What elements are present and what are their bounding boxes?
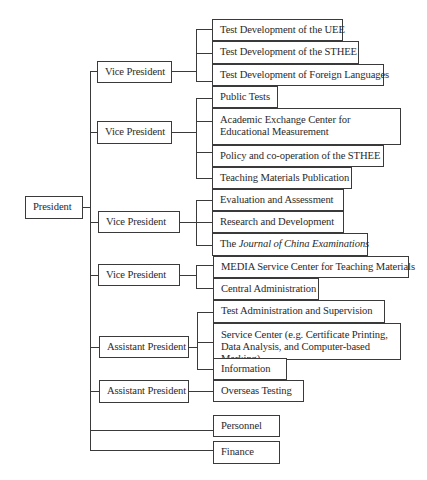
vice-president-box: Vice President [97, 61, 172, 83]
vice-president-box: Vice President [98, 264, 180, 286]
unit-box: Academic Exchange Center for Educational… [212, 108, 401, 145]
connector [196, 29, 212, 30]
unit-box: Test Development of the STHEE [212, 41, 359, 64]
connector [196, 81, 212, 82]
vice-president-box: Vice President [97, 121, 172, 144]
unit-box: Overseas Testing [213, 380, 304, 402]
assistant-president-box: Assistant President [99, 380, 189, 403]
org-chart: President Vice President Vice President … [0, 0, 427, 480]
connector [196, 98, 212, 99]
connector [90, 347, 99, 348]
unit-box: Evaluation and Assessment [212, 189, 344, 211]
sub-spine [196, 29, 197, 82]
unit-box: Public Tests [212, 86, 278, 108]
connector [189, 391, 213, 392]
connector [172, 132, 196, 133]
journal-prefix: The [220, 238, 239, 249]
main-spine [90, 71, 91, 451]
connector [196, 178, 212, 179]
connector [189, 347, 197, 348]
unit-box: Policy and co-operation of the STHEE [212, 145, 384, 167]
unit-box: Test Development of the UEE [212, 19, 343, 41]
unit-box: Test Development of Foreign Languages [212, 64, 384, 86]
connector [197, 342, 213, 343]
connector [196, 121, 212, 122]
connector [180, 275, 196, 276]
assistant-president-box: Assistant President [99, 336, 189, 358]
unit-box: Test Administration and Supervision [213, 300, 385, 323]
connector [196, 288, 213, 289]
unit-box: Research and Development [212, 211, 344, 233]
connector [196, 53, 212, 54]
connector [172, 71, 196, 72]
connector [197, 369, 213, 370]
unit-box: Service Center (e.g. Certificate Printin… [213, 323, 401, 360]
connector [196, 245, 212, 246]
president-box: President [25, 196, 83, 219]
unit-box: Information [213, 358, 287, 380]
sub-spine [196, 98, 197, 179]
unit-box: MEDIA Service Center for Teaching Materi… [213, 256, 409, 278]
connector [90, 450, 213, 451]
connector [197, 312, 213, 313]
unit-box: Central Administration [213, 278, 319, 300]
journal-title: Journal of China Examinations [239, 238, 369, 249]
unit-box: The Journal of China Examinations [212, 233, 368, 256]
sub-spine [197, 312, 198, 370]
personnel-box: Personnel [213, 415, 280, 437]
connector [90, 391, 99, 392]
connector [196, 265, 213, 266]
connector [196, 152, 212, 153]
finance-box: Finance [213, 441, 280, 464]
sub-spine [196, 265, 197, 289]
sub-spine [196, 200, 197, 246]
connector [90, 430, 213, 431]
vice-president-box: Vice President [98, 211, 180, 233]
unit-box: Teaching Materials Publication [212, 167, 352, 189]
connector [196, 200, 212, 201]
